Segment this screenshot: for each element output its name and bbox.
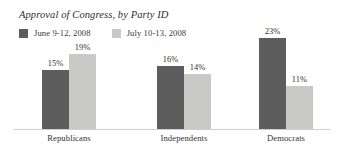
bar-independents-series-2[interactable] (184, 74, 211, 129)
category-label-independents: Independents (151, 133, 217, 143)
bar-republicans-series-2[interactable] (69, 54, 96, 129)
bar-republicans-series-1[interactable] (42, 70, 69, 129)
bar-value-independents-series-2: 14% (190, 64, 206, 72)
chart-container: Approval of Congress, by Party ID June 9… (0, 0, 344, 150)
bar-value-independents-series-1: 16% (163, 56, 179, 64)
bar-group-independents: 16% 14% (151, 21, 217, 129)
plot-area: 15% 19% Republicans 16% 14% Independents (0, 0, 344, 150)
bar-wrap-republicans-series-2: 19% (69, 21, 96, 129)
x-axis-baseline (14, 129, 330, 130)
bar-democrats-series-2[interactable] (286, 86, 313, 129)
bar-wrap-independents-series-2: 14% (184, 21, 211, 129)
bar-wrap-democrats-series-2: 11% (286, 21, 313, 129)
bar-value-democrats-series-2: 11% (292, 76, 307, 84)
bar-democrats-series-1[interactable] (259, 38, 286, 129)
category-label-democrats: Democrats (253, 133, 319, 143)
bar-value-republicans-series-2: 19% (75, 44, 91, 52)
bar-wrap-democrats-series-1: 23% (259, 21, 286, 129)
bar-independents-series-1[interactable] (157, 66, 184, 129)
bar-wrap-republicans-series-1: 15% (42, 21, 69, 129)
bar-wrap-independents-series-1: 16% (157, 21, 184, 129)
bar-value-democrats-series-1: 23% (265, 28, 281, 36)
bar-group-democrats: 23% 11% (253, 21, 319, 129)
category-label-republicans: Republicans (36, 133, 102, 143)
bar-group-republicans: 15% 19% (36, 21, 102, 129)
bar-value-republicans-series-1: 15% (48, 60, 64, 68)
